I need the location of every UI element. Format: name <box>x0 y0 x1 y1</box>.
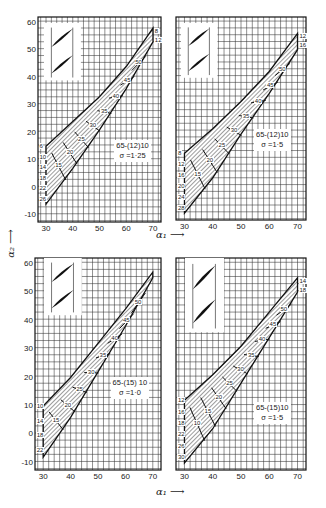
deflection-label: 50 <box>135 59 143 65</box>
x-tick-label: 60 <box>118 225 134 233</box>
x-tick-label: 40 <box>205 473 221 481</box>
y-tick-label: 20 <box>18 129 36 137</box>
x-tick-label: 60 <box>261 473 277 481</box>
x-axis-title-bottom: α₁ ⟶ <box>156 486 184 497</box>
x-tick-label: 40 <box>205 223 221 231</box>
y-axis-title: α₂ ⟶ <box>5 229 16 257</box>
incidence-label: 22 <box>177 431 185 437</box>
incidence-label: 18 <box>36 432 44 438</box>
incidence-label: 10 <box>39 154 47 160</box>
incidence-label: 18 <box>39 175 47 181</box>
y-tick-label: 40 <box>18 74 36 82</box>
deflection-label: 30 <box>237 366 245 372</box>
incidence-label: 26 <box>177 443 185 449</box>
legend-box: 65-(12)10σ =1·25 <box>114 140 151 162</box>
deflection-label: 35 <box>242 113 250 119</box>
x-tick-label: 50 <box>233 223 249 231</box>
legend-box: 65-(15)10σ =1·5 <box>254 402 291 424</box>
solidity-label: σ =1·25 <box>116 151 149 161</box>
deflection-label: 30 <box>89 122 97 128</box>
x-tick-label: 50 <box>92 225 108 233</box>
y-tick-label: 30 <box>18 101 36 109</box>
incidence-label: 12 <box>299 33 307 39</box>
x-tick-label: 70 <box>290 223 306 231</box>
deflection-label: 20 <box>64 402 72 408</box>
x-tick-label: 30 <box>176 223 192 231</box>
deflection-label: 20 <box>206 157 214 163</box>
solidity-label: σ =1·5 <box>256 140 289 150</box>
solidity-label: σ =1·5 <box>256 413 289 423</box>
incidence-label: 22 <box>36 447 44 453</box>
deflection-label: 35 <box>99 352 107 358</box>
deflection-label: 25 <box>226 380 234 386</box>
y-tick-label: 30 <box>15 345 33 353</box>
incidence-label: 16 <box>177 172 185 178</box>
deflection-label: 15 <box>204 408 212 414</box>
x-tick-label: 30 <box>38 225 54 233</box>
incidence-label: 8 <box>177 150 181 156</box>
profile-label: 65-(12)10 <box>256 130 289 140</box>
deflection-label: 10 <box>193 420 201 426</box>
profile-label: 65-(12)10 <box>116 141 149 151</box>
deflection-label: 45 <box>266 82 274 88</box>
chart-panel-65-15-10-s10: 15202530354045501014182265-(15) 10σ =1·0… <box>35 258 161 470</box>
x-tick-label: 30 <box>35 473 51 481</box>
incidence-label: 12 <box>177 397 185 403</box>
y-tick-label: 50 <box>15 288 33 296</box>
blade-cascade-icon <box>185 258 224 332</box>
deflection-label: 30 <box>87 369 95 375</box>
y-tick-label: -10 <box>18 211 36 219</box>
deflection-label: 40 <box>258 336 266 342</box>
deflection-label: 40 <box>111 335 119 341</box>
y-tick-label: -10 <box>15 459 33 467</box>
incidence-label: 14 <box>36 418 44 424</box>
incidence-label: 24 <box>177 194 185 200</box>
chart-panel-65-12-10-s125: 15202530354045506101418222681265-(12)10σ… <box>38 17 161 222</box>
x-tick-label: 40 <box>65 225 81 233</box>
y-tick-label: 10 <box>15 402 33 410</box>
x-tick-label: 30 <box>176 473 192 481</box>
chart-panel-65-15-10-s15: 101520253035404550121618222630141865-(15… <box>176 258 306 470</box>
y-tick-label: 0 <box>15 430 33 438</box>
blade-cascade-icon <box>44 23 81 80</box>
y-tick-label: 10 <box>18 156 36 164</box>
y-tick-label: 60 <box>15 260 33 268</box>
x-tick-label: 40 <box>63 473 79 481</box>
x-tick-label: 70 <box>145 225 161 233</box>
deflection-label: 30 <box>230 127 238 133</box>
x-tick-label: 50 <box>90 473 106 481</box>
y-tick-label: 0 <box>18 184 36 192</box>
incidence-label: 14 <box>39 164 47 170</box>
incidence-label: 26 <box>39 196 47 202</box>
incidence-label: 22 <box>39 185 47 191</box>
y-tick-label: 60 <box>18 19 36 27</box>
incidence-label: 12 <box>154 37 162 43</box>
incidence-label: 16 <box>177 409 185 415</box>
y-tick-label: 20 <box>15 374 33 382</box>
incidence-label: 6 <box>39 143 43 149</box>
x-tick-label: 60 <box>261 223 277 231</box>
deflection-label: 15 <box>194 171 202 177</box>
deflection-label: 35 <box>247 352 255 358</box>
incidence-label: 8 <box>154 28 158 34</box>
blade-cascade-icon <box>44 258 82 315</box>
deflection-label: 15 <box>52 417 60 423</box>
blade-cascade-icon <box>181 23 217 78</box>
deflection-label: 45 <box>123 77 131 83</box>
chart-panel-65-12-10-s15: 152025303540455081216202428121665-(12)10… <box>176 17 306 220</box>
legend-box: 65-(15) 10σ =1·0 <box>111 377 150 399</box>
deflection-label: 40 <box>112 93 120 99</box>
deflection-label: 50 <box>134 299 142 305</box>
incidence-label: 28 <box>177 205 185 211</box>
deflection-label: 50 <box>280 306 288 312</box>
x-tick-label: 50 <box>233 473 249 481</box>
deflection-label: 25 <box>218 142 226 148</box>
deflection-label: 25 <box>78 136 86 142</box>
x-tick-label: 70 <box>145 473 161 481</box>
profile-label: 65-(15) 10 <box>113 378 148 388</box>
deflection-label: 35 <box>100 108 108 114</box>
incidence-label: 14 <box>299 278 307 284</box>
legend-box: 65-(12)10σ =1·5 <box>254 129 291 151</box>
y-tick-label: 50 <box>18 46 36 54</box>
incidence-label: 18 <box>299 287 307 293</box>
